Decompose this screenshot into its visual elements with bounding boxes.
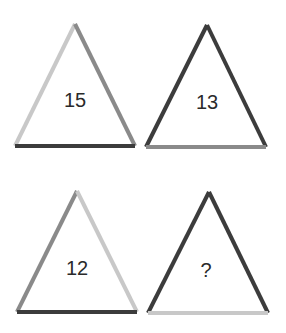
left-edge xyxy=(15,24,75,146)
triangle-number: 12 xyxy=(66,257,88,279)
triangle-number: 15 xyxy=(64,89,86,111)
right-edge xyxy=(207,25,266,147)
left-edge xyxy=(148,192,209,313)
triangle-puzzle: 15 13 12 ? xyxy=(0,0,286,333)
triangle-top-left: 15 xyxy=(15,24,135,146)
triangle-bottom-left: 12 xyxy=(17,191,137,312)
right-edge xyxy=(75,24,135,146)
right-edge xyxy=(209,192,268,313)
right-edge xyxy=(77,191,137,312)
left-edge xyxy=(17,191,77,312)
triangle-bottom-right: ? xyxy=(148,192,268,313)
left-edge xyxy=(146,25,207,147)
triangle-number: 13 xyxy=(196,91,218,113)
question-mark: ? xyxy=(200,259,211,281)
triangle-top-right: 13 xyxy=(146,25,266,147)
